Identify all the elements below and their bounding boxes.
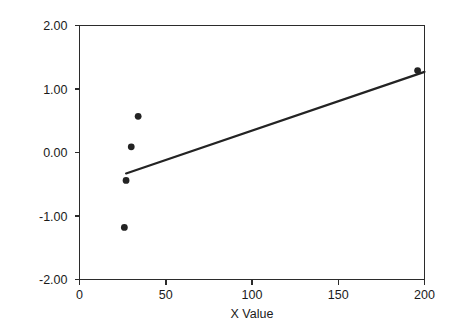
data-point — [121, 224, 128, 231]
data-point — [128, 143, 135, 150]
x-tick-label: 50 — [159, 288, 173, 302]
x-tick-label: 0 — [76, 288, 83, 302]
data-point — [135, 113, 142, 120]
x-axis-tick-labels: 050100150200 — [76, 288, 435, 302]
y-axis-tick-labels: 2.001.000.00-1.00-2.00 — [39, 19, 68, 287]
x-tick-label: 100 — [242, 288, 263, 302]
x-tick-label: 150 — [328, 288, 349, 302]
x-axis-title: X Value — [231, 307, 274, 321]
chart-screenshot: 2.001.000.00-1.00-2.00 050100150200 X Va… — [0, 0, 449, 335]
plot-frame — [79, 25, 425, 280]
y-tick-label: 2.00 — [43, 19, 67, 33]
y-tick-label: -1.00 — [39, 210, 68, 224]
y-tick-label: -2.00 — [39, 273, 68, 287]
y-tick-label: 1.00 — [43, 83, 67, 97]
y-tick-label: 0.00 — [43, 146, 67, 160]
regression-line — [126, 72, 424, 174]
scatter-plot: 2.001.000.00-1.00-2.00 050100150200 X Va… — [0, 0, 449, 335]
x-tick-label: 200 — [414, 288, 435, 302]
regression-line-group — [126, 72, 424, 174]
data-point-group — [121, 67, 421, 231]
data-point — [123, 177, 130, 184]
data-point — [414, 67, 421, 74]
